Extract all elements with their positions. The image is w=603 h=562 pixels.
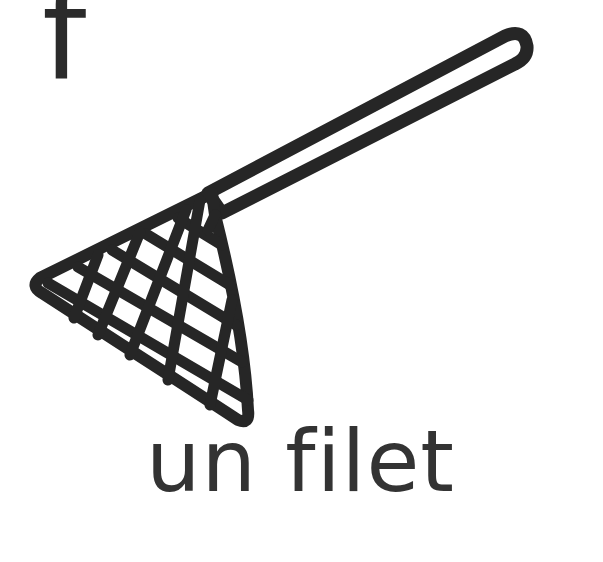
net-handle	[208, 34, 527, 213]
word-caption: un filet	[146, 418, 455, 504]
